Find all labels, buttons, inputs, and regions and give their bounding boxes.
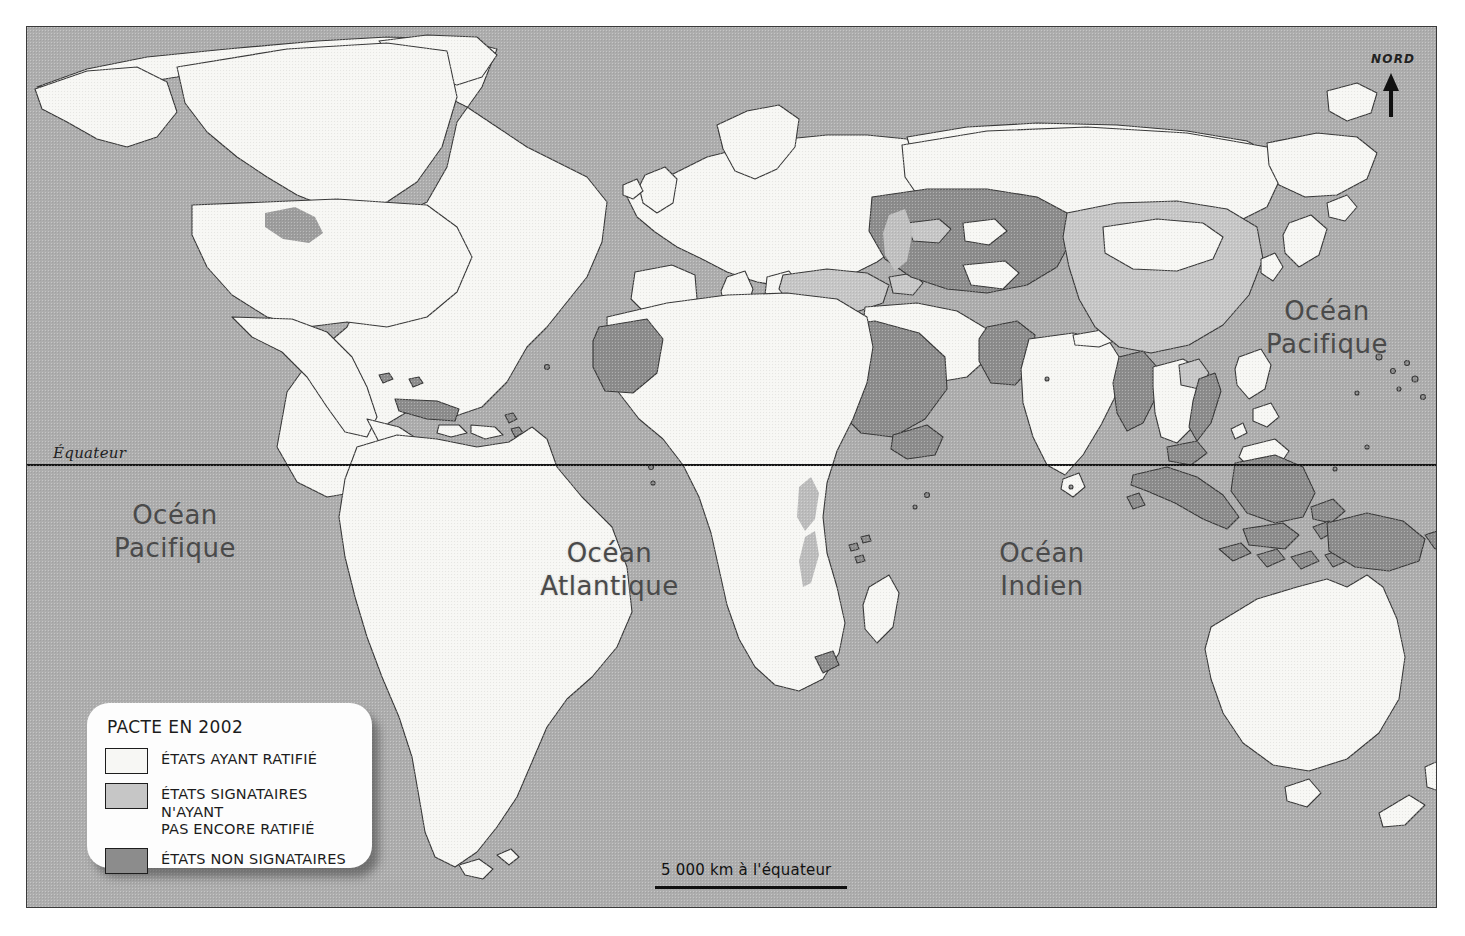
map-legend: PACTE EN 2002 ÉTATS AYANT RATIFIÉ ÉTATS … (87, 703, 372, 868)
ocean-label-indian: Océan Indien (947, 537, 1137, 604)
north-arrow-icon (1379, 71, 1403, 119)
ocean-label-atlantic: Océan Atlantique (507, 537, 712, 604)
legend-item-ratified: ÉTATS AYANT RATIFIÉ (105, 748, 356, 774)
region-australia (1205, 575, 1437, 827)
region-japan (1283, 215, 1327, 267)
region-myanmar (1113, 351, 1157, 431)
region-south-america (339, 427, 632, 879)
legend-item-signed-not-ratified: ÉTATS SIGNATAIRES N'AYANT PAS ENCORE RAT… (105, 783, 356, 839)
scale-bar-label: 5 000 km à l'équateur (661, 861, 831, 879)
north-label: NORD (1371, 52, 1415, 66)
legend-item-non-signatory: ÉTATS NON SIGNATAIRES (105, 848, 356, 874)
map-page: Océan Pacifique Océan Pacifique Océan At… (0, 0, 1465, 936)
equator-label: Équateur (53, 444, 126, 462)
region-new-zealand-south (1379, 795, 1425, 827)
region-tasmania (1285, 779, 1321, 807)
legend-label-non-signatory: ÉTATS NON SIGNATAIRES (161, 848, 346, 869)
legend-label-signed-not-ratified: ÉTATS SIGNATAIRES N'AYANT PAS ENCORE RAT… (161, 783, 356, 839)
legend-title: PACTE EN 2002 (107, 717, 356, 737)
region-madagascar (863, 575, 899, 643)
legend-swatch-non-signatory (105, 848, 148, 874)
legend-label-ratified: ÉTATS AYANT RATIFIÉ (161, 748, 317, 769)
scale-bar-rule (655, 886, 847, 889)
world-map-frame: Océan Pacifique Océan Pacifique Océan At… (26, 26, 1437, 908)
legend-swatch-signed-not-ratified (105, 783, 148, 809)
legend-swatch-ratified (105, 748, 148, 774)
ocean-label-pacific-south: Océan Pacifique (75, 499, 275, 566)
region-north-america (35, 35, 607, 497)
ocean-label-pacific-north: Océan Pacifique (1232, 295, 1422, 362)
region-new-zealand-north (1425, 757, 1437, 793)
region-india (1021, 333, 1123, 475)
region-indonesia (1127, 455, 1351, 569)
